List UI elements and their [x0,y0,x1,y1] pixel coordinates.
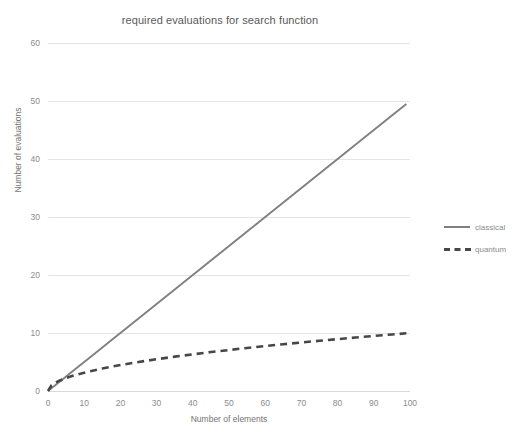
legend-item-quantum[interactable]: quantum [444,241,528,257]
x-axis-tick-label: 50 [214,399,244,408]
legend-swatch-classical-icon [444,222,470,232]
chart-container: required evaluations for search function… [0,0,531,433]
legend-label: classical [475,223,505,232]
x-axis-line [48,391,410,392]
x-axis-tick-label: 100 [395,399,425,408]
y-axis-tick-label: 0 [6,387,40,396]
x-axis-tick-label: 70 [286,399,316,408]
y-axis-tick-label: 60 [6,39,40,48]
chart-legend: classicalquantum [444,219,528,263]
y-axis-tick-label: 40 [6,155,40,164]
y-axis-tick-label: 10 [6,329,40,338]
x-axis-tick-label: 60 [250,399,280,408]
x-axis-tick-label: 40 [178,399,208,408]
x-axis-tick-label: 90 [359,399,389,408]
series-line-classical [48,104,406,391]
chart-title: required evaluations for search function [0,14,440,26]
x-axis-tick-label: 0 [33,399,63,408]
series-line-quantum [48,333,406,391]
x-axis-label: Number of elements [48,414,410,424]
legend-swatch-quantum-icon [444,244,470,254]
x-axis-tick-label: 30 [142,399,172,408]
series-layer [48,43,410,391]
x-axis-tick-label: 80 [323,399,353,408]
plot-area [48,43,410,391]
x-axis-tick-label: 20 [105,399,135,408]
y-axis-tick-label: 50 [6,97,40,106]
y-axis-tick-label: 20 [6,271,40,280]
y-axis-tick-label: 30 [6,213,40,222]
x-axis-tick-label: 10 [69,399,99,408]
legend-label: quantum [475,245,506,254]
y-axis-label: Number of evaluations [13,70,23,230]
legend-item-classical[interactable]: classical [444,219,528,235]
